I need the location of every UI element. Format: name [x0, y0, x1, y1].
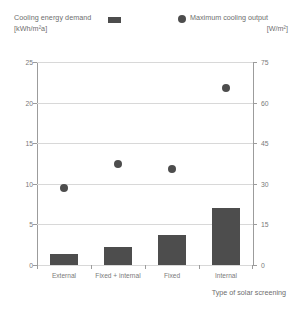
gridline-15 — [37, 143, 253, 144]
x-axis-title: Type of solar screening — [150, 288, 286, 297]
x-axis-label-external: External — [37, 272, 91, 280]
right-axis-label-15: 15 — [261, 221, 283, 228]
legend-dot-series-label: Maximum cooling output — [190, 13, 268, 24]
legend-bar-series-unit: [kWh/m²a] — [14, 24, 139, 35]
bar-fixed-internal — [104, 247, 132, 265]
x-axis-label-fixed: Fixed — [145, 272, 199, 280]
bar-internal — [212, 208, 240, 265]
left-axis-label-10: 10 — [11, 181, 33, 188]
dot-internal — [222, 84, 230, 92]
left-axis-label-0: 0 — [11, 262, 33, 269]
x-tick-2 — [145, 265, 146, 269]
x-tick-1 — [91, 265, 92, 269]
dot-fixed-internal — [114, 160, 122, 168]
dot-external — [60, 184, 68, 192]
legend-bar-swatch-icon — [108, 17, 121, 23]
gridline-10 — [37, 184, 253, 185]
right-tick-60 — [253, 103, 257, 104]
left-axis-label-20: 20 — [11, 100, 33, 107]
right-axis-label-30: 30 — [261, 181, 283, 188]
right-axis-label-0: 0 — [261, 262, 283, 269]
left-tick-20 — [33, 103, 37, 104]
right-tick-15 — [253, 224, 257, 225]
cooling-chart: Cooling energy demand [kWh/m²a] Maximum … — [0, 0, 291, 310]
left-axis-label-25: 25 — [11, 59, 33, 66]
x-tick-3 — [199, 265, 200, 269]
right-tick-30 — [253, 184, 257, 185]
right-axis-line — [253, 62, 254, 266]
dot-fixed — [168, 165, 176, 173]
left-axis-label-5: 5 — [11, 221, 33, 228]
left-tick-25 — [33, 62, 37, 63]
bar-fixed — [158, 235, 186, 265]
x-tick-0 — [37, 265, 38, 269]
plot-area — [37, 62, 253, 265]
bar-external — [50, 254, 78, 265]
right-axis-label-75: 75 — [261, 59, 283, 66]
right-axis-label-45: 45 — [261, 140, 283, 147]
right-tick-45 — [253, 143, 257, 144]
legend-dot-swatch-icon — [178, 15, 186, 23]
right-axis-label-60: 60 — [261, 100, 283, 107]
right-tick-75 — [253, 62, 257, 63]
right-tick-0 — [253, 265, 257, 266]
gridline-25 — [37, 62, 253, 63]
x-axis-label-fixed-internal: Fixed + internal — [91, 272, 145, 280]
x-tick-4 — [252, 265, 253, 269]
left-tick-15 — [33, 143, 37, 144]
gridline-20 — [37, 103, 253, 104]
left-tick-10 — [33, 184, 37, 185]
legend-dot-series-unit: [W/m²] — [176, 24, 288, 35]
left-axis-label-15: 15 — [11, 140, 33, 147]
x-axis-label-internal: Internal — [199, 272, 253, 280]
left-tick-5 — [33, 224, 37, 225]
